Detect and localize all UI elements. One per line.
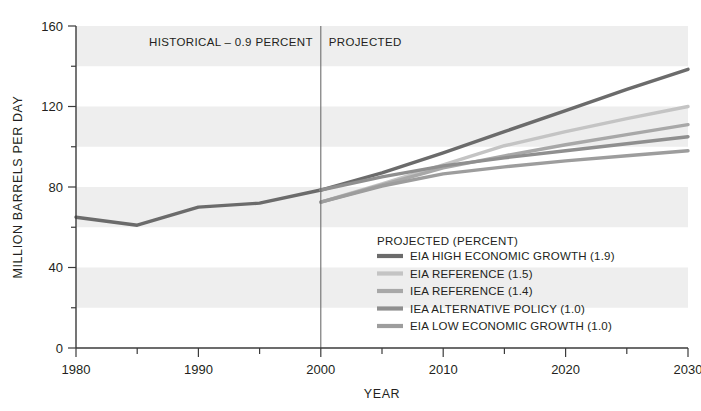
x-axis-tick-label: 2020 (551, 362, 580, 377)
legend-item-label: IEA REFERENCE (1.4) (410, 285, 533, 297)
x-axis-tick-label: 1980 (62, 362, 91, 377)
x-axis-tick-label: 2000 (306, 362, 335, 377)
projected-region-label: PROJECTED (329, 36, 402, 48)
y-axis-title: MILLION BARRELS PER DAY (11, 95, 25, 278)
legend-item-label: EIA LOW ECONOMIC GROWTH (1.0) (410, 320, 612, 332)
historical-region-label: HISTORICAL – 0.9 PERCENT (149, 36, 313, 48)
x-axis-tick-label: 1990 (184, 362, 213, 377)
legend-item-label: EIA REFERENCE (1.5) (410, 268, 533, 280)
y-axis-tick-label: 0 (56, 341, 63, 356)
y-axis-tick-label: 160 (41, 19, 63, 34)
chart-container: 04080120160198019902000201020202030YEARM… (0, 0, 701, 411)
legend-item-label: EIA HIGH ECONOMIC GROWTH (1.9) (410, 250, 615, 262)
y-axis-tick-label: 40 (49, 260, 63, 275)
y-axis-tick-label: 120 (41, 99, 63, 114)
legend-item-label: IEA ALTERNATIVE POLICY (1.0) (410, 303, 585, 315)
x-axis-tick-label: 2030 (674, 362, 701, 377)
region-annotations: HISTORICAL – 0.9 PERCENTPROJECTED (149, 36, 402, 48)
y-axis-tick-label: 80 (49, 180, 63, 195)
line-chart: 04080120160198019902000201020202030YEARM… (0, 0, 701, 411)
background-band (76, 187, 688, 227)
x-axis-tick-label: 2010 (429, 362, 458, 377)
x-axis-title: YEAR (364, 387, 400, 401)
legend-title: PROJECTED (PERCENT) (377, 235, 518, 247)
